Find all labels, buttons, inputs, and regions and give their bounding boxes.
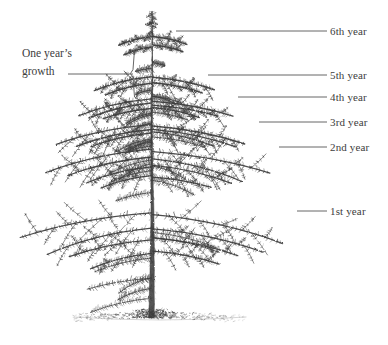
label-year-3: 3rd year <box>330 117 368 128</box>
one-year-growth-line1: One year’s <box>22 45 72 63</box>
label-year-1: 1st year <box>330 206 366 217</box>
one-year-growth-label: One year’s growth <box>22 45 72 81</box>
label-year-6: 6th year <box>330 26 367 37</box>
one-year-growth-line2: growth <box>22 63 72 81</box>
ground-line <box>73 308 246 322</box>
conifer-growth-figure: One year’s growth 6th year5th year4th ye… <box>0 0 388 345</box>
label-year-5: 5th year <box>330 70 367 81</box>
label-year-2: 2nd year <box>330 142 369 153</box>
label-year-4: 4th year <box>330 92 367 103</box>
